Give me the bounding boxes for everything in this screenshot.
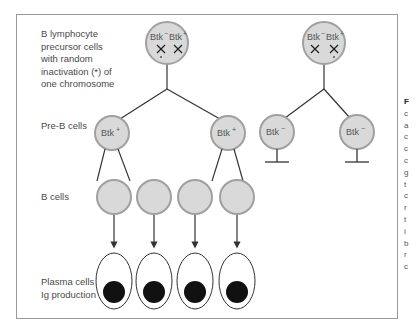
svg-text:+: + — [340, 30, 344, 37]
b-cell — [137, 180, 171, 214]
svg-text:+: + — [116, 126, 120, 133]
svg-text:Btk: Btk — [101, 128, 115, 138]
left-lineage: Btk − Btk + Btk + Btk + — [95, 22, 255, 309]
allele-label: Btk — [169, 32, 183, 42]
b-cell — [220, 180, 254, 214]
truncated-caption-text: F c a c c c g t c r t i b r c — [404, 96, 416, 273]
nucleus — [103, 281, 125, 303]
svg-text:−: − — [164, 30, 168, 37]
plasma-cell — [177, 253, 213, 309]
svg-text:Btk: Btk — [266, 127, 280, 137]
svg-text:Btk: Btk — [326, 32, 340, 42]
plasma-cell — [136, 253, 172, 309]
nucleus — [226, 281, 248, 303]
blocked-development-icon — [265, 149, 289, 162]
svg-text:+: + — [183, 30, 187, 37]
pre-b-cell: Btk + — [211, 116, 245, 150]
svg-text:Btk: Btk — [217, 128, 231, 138]
inactivation-marker-icon — [333, 56, 335, 58]
pre-b-cell: Btk − — [260, 115, 294, 149]
pre-b-cell: Btk + — [95, 116, 129, 150]
plasma-cell — [96, 253, 132, 309]
allele-label: Btk — [150, 32, 164, 42]
svg-text:Btk: Btk — [346, 127, 360, 137]
inactivation-marker-icon — [160, 56, 162, 58]
b-cell — [178, 180, 212, 214]
svg-text:Btk: Btk — [307, 32, 321, 42]
plasma-cell — [219, 253, 255, 309]
lineage-diagram: Btk − Btk + Btk + Btk + — [0, 0, 416, 335]
blocked-development-icon — [345, 149, 369, 162]
svg-text:+: + — [232, 126, 236, 133]
precursor-cell-left: Btk − Btk + — [146, 22, 188, 64]
b-cell — [97, 180, 131, 214]
precursor-cell-right: Btk − Btk + — [303, 22, 345, 64]
svg-text:−: − — [361, 125, 365, 132]
pre-b-cell: Btk − — [340, 115, 374, 149]
nucleus — [143, 281, 165, 303]
right-lineage: Btk − Btk + Btk − Btk − — [260, 22, 374, 162]
nucleus — [184, 281, 206, 303]
svg-text:−: − — [281, 125, 285, 132]
svg-text:−: − — [321, 30, 325, 37]
